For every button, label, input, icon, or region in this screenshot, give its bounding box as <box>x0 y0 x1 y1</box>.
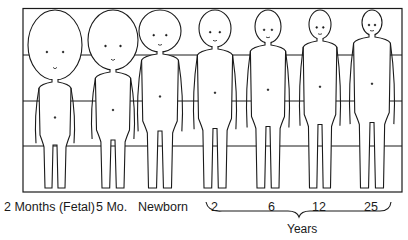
eye-icon <box>368 24 370 26</box>
right-arm <box>286 51 290 128</box>
figure-age-2 <box>193 10 236 188</box>
navel <box>267 89 269 91</box>
eye-icon <box>322 27 324 29</box>
left-arm <box>137 60 141 131</box>
eye-icon <box>165 34 167 36</box>
left-arm <box>91 78 95 139</box>
label-age-6: 6 <box>268 200 275 214</box>
left-arm <box>246 51 250 128</box>
figures-group <box>28 10 395 188</box>
head-outline <box>28 10 82 80</box>
left-arm <box>35 88 39 143</box>
body-proportions-diagram: 2 Months (Fetal) 5 Mo. Newborn 2 6 12 25… <box>0 0 408 240</box>
label-2-months-fetal: 2 Months (Fetal) <box>4 200 95 214</box>
head-outline <box>139 10 181 52</box>
figure-age-6 <box>246 10 289 188</box>
eye-icon <box>120 45 122 47</box>
head-outline <box>88 10 138 70</box>
eye-icon <box>62 51 64 53</box>
right-arm <box>71 88 75 143</box>
eye-icon <box>271 29 273 31</box>
navel <box>214 92 216 94</box>
figure-5-months <box>88 10 138 188</box>
right-arm <box>233 55 237 129</box>
navel <box>371 83 373 85</box>
right-arm <box>337 47 341 126</box>
figure-age-12 <box>299 10 340 188</box>
navel <box>54 117 56 119</box>
torso-outline <box>95 69 130 188</box>
torso-outline <box>197 46 232 188</box>
right-arm <box>131 78 135 139</box>
torso-outline <box>354 34 391 188</box>
eye-icon <box>219 31 221 33</box>
label-age-25: 25 <box>364 200 378 214</box>
torso-outline <box>303 38 337 188</box>
torso-outline <box>142 51 179 188</box>
eye-icon <box>374 24 376 26</box>
eye-icon <box>153 34 155 36</box>
figure-newborn <box>137 10 182 188</box>
eye-icon <box>263 29 265 31</box>
left-arm <box>193 55 197 129</box>
figure-2-months-fetal <box>28 10 82 188</box>
label-5-months: 5 Mo. <box>96 200 127 214</box>
torso-outline <box>250 42 285 188</box>
label-years: Years <box>287 222 317 236</box>
label-age-12: 12 <box>312 200 326 214</box>
figure-age-25 <box>349 10 394 188</box>
eye-icon <box>209 31 211 33</box>
left-arm <box>299 47 303 126</box>
label-newborn: Newborn <box>138 200 188 214</box>
label-age-2: 2 <box>211 200 218 214</box>
eye-icon <box>316 27 318 29</box>
navel <box>112 109 114 111</box>
navel <box>319 86 321 88</box>
eye-icon <box>105 45 107 47</box>
eye-icon <box>46 51 48 53</box>
right-arm <box>178 60 182 131</box>
torso-outline <box>39 79 71 188</box>
navel <box>159 96 161 98</box>
